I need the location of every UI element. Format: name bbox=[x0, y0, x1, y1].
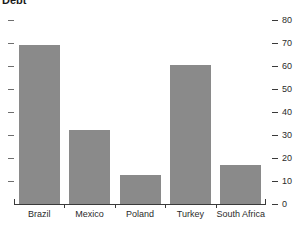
y-tick-50 bbox=[272, 89, 278, 90]
y-tick-left-40 bbox=[8, 112, 14, 113]
category-label-poland: Poland bbox=[115, 209, 165, 220]
y-axis-label-80: 80 bbox=[282, 16, 292, 25]
axis-right-endcap-tick bbox=[265, 199, 266, 205]
bar bbox=[170, 65, 211, 204]
axis-baseline bbox=[14, 204, 266, 205]
category-label-south-africa: South Africa bbox=[216, 209, 266, 220]
bar-chart: Debt BrazilMexicoPolandTurkeySouth Afric… bbox=[0, 0, 305, 238]
y-tick-20 bbox=[272, 158, 278, 159]
bar bbox=[19, 45, 60, 204]
y-axis-label-70: 70 bbox=[282, 39, 292, 48]
y-tick-60 bbox=[272, 66, 278, 67]
y-tick-70 bbox=[272, 43, 278, 44]
y-tick-0 bbox=[272, 204, 278, 205]
chart-title: Debt bbox=[2, 0, 26, 6]
y-tick-left-60 bbox=[8, 66, 14, 67]
category-label-turkey: Turkey bbox=[165, 209, 215, 220]
bar bbox=[69, 130, 110, 204]
y-axis-label-0: 0 bbox=[282, 200, 287, 209]
bar bbox=[220, 165, 261, 204]
y-tick-left-30 bbox=[8, 135, 14, 136]
axis-left-endcap-tick bbox=[14, 199, 15, 205]
y-tick-80 bbox=[272, 20, 278, 21]
y-tick-30 bbox=[272, 135, 278, 136]
y-tick-40 bbox=[272, 112, 278, 113]
category-tick bbox=[216, 204, 217, 208]
category-tick bbox=[115, 204, 116, 208]
y-tick-left-50 bbox=[8, 89, 14, 90]
y-tick-left-80 bbox=[8, 20, 14, 21]
y-axis-label-40: 40 bbox=[282, 108, 292, 117]
y-axis-label-20: 20 bbox=[282, 154, 292, 163]
y-tick-left-70 bbox=[8, 43, 14, 44]
y-tick-left-20 bbox=[8, 158, 14, 159]
y-axis-label-30: 30 bbox=[282, 131, 292, 140]
y-tick-10 bbox=[272, 181, 278, 182]
y-axis-label-50: 50 bbox=[282, 85, 292, 94]
y-axis-label-60: 60 bbox=[282, 62, 292, 71]
category-label-mexico: Mexico bbox=[64, 209, 114, 220]
category-tick bbox=[165, 204, 166, 208]
category-tick bbox=[64, 204, 65, 208]
category-label-brazil: Brazil bbox=[14, 209, 64, 220]
y-tick-left-10 bbox=[8, 181, 14, 182]
bar bbox=[120, 175, 161, 204]
y-axis-label-10: 10 bbox=[282, 177, 292, 186]
